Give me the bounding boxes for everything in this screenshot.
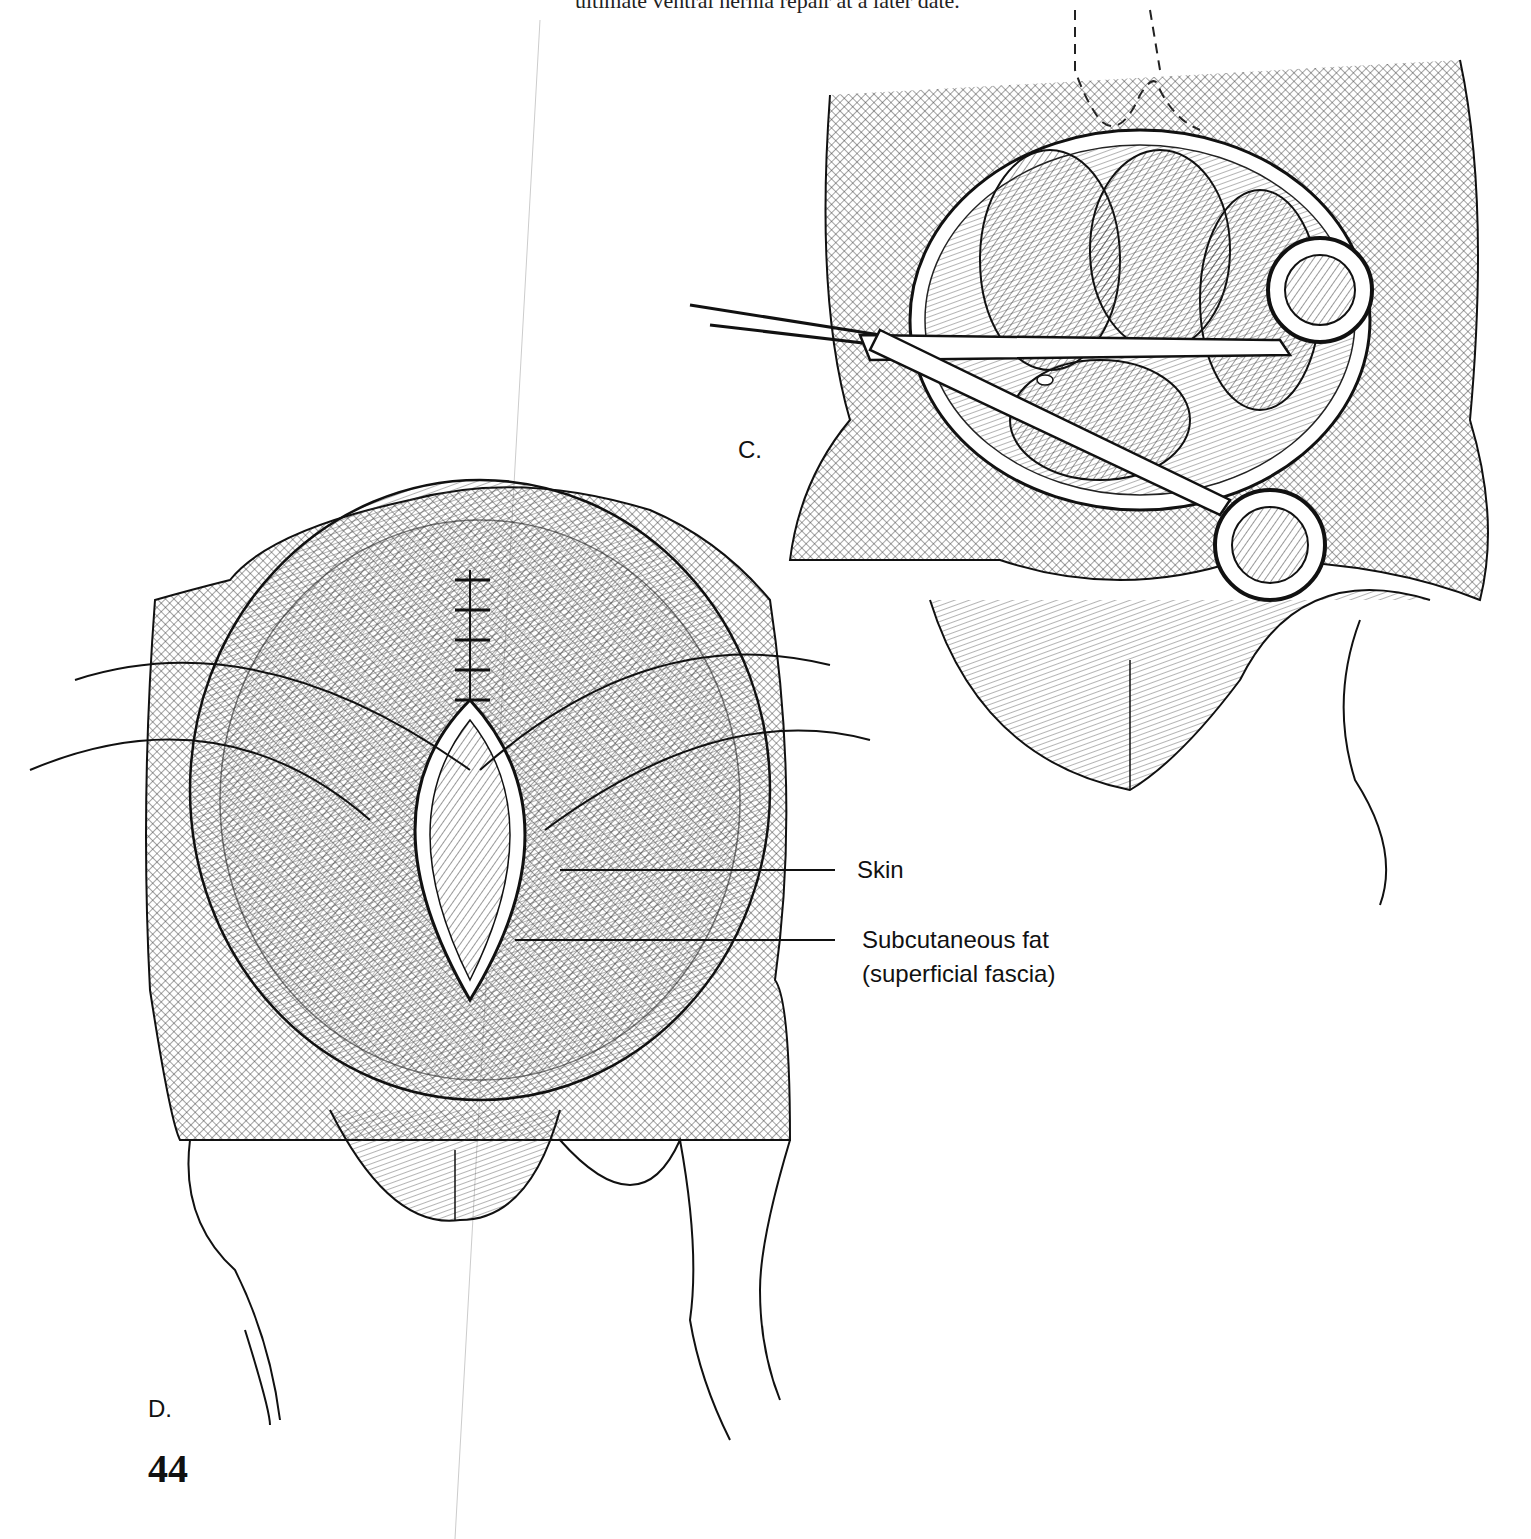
- surgical-illustration: [0, 0, 1531, 1539]
- figure-c-drawing: [690, 10, 1488, 905]
- page-number: 44: [148, 1445, 188, 1492]
- annotation-superficial-fascia: (superficial fascia): [862, 960, 1055, 988]
- annotation-skin: Skin: [857, 856, 904, 884]
- figure-d-drawing: [30, 480, 870, 1440]
- panel-label-c: C.: [738, 436, 762, 464]
- annotation-subcutaneous-fat: Subcutaneous fat: [862, 926, 1049, 954]
- panel-label-d: D.: [148, 1395, 172, 1423]
